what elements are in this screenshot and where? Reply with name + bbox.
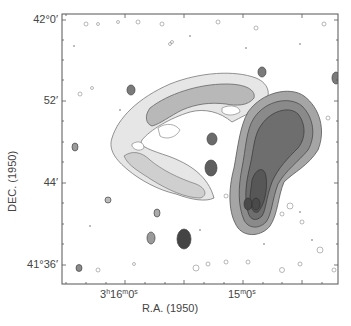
xtick-minutes: 16 <box>110 288 122 300</box>
ytick-label-41-36: 41°36′ <box>0 258 58 270</box>
x-axis-label: R.A. (1950) <box>142 302 198 314</box>
contour-layer <box>72 20 340 289</box>
ytick-label-42-0: 42°0′ <box>0 13 58 25</box>
ytick-label-52: 52′ <box>0 94 58 106</box>
xtick-seconds-unit: s <box>134 288 138 295</box>
xtick-seconds-unit: s <box>252 288 256 295</box>
contour-plot <box>0 0 351 326</box>
xtick-label-15m0s: 15m0s <box>228 288 256 300</box>
y-axis-label: DEC. (1950) <box>6 151 18 212</box>
xtick-label-3h16m0s: 3h16m0s <box>100 288 138 300</box>
xtick-minutes: 15 <box>228 288 240 300</box>
contour-figure: 42°0′ 52′ 44′ 41°36′ 3h16m0s 15m0s DEC. … <box>0 0 351 326</box>
